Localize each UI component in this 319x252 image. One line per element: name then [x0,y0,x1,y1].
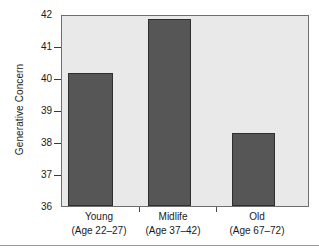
y-axis-title: Generative Concern [10,34,30,184]
y-tick-mark [54,175,61,176]
bar-chart-figure: Generative Concern 42 41 40 39 38 37 36 … [0,0,319,252]
x-category-old: Old (Age 67–72) [207,210,307,238]
plot-inner [62,16,308,206]
y-tick-label: 37 [30,170,52,180]
y-tick-mark [54,79,61,80]
plot-area [61,15,309,207]
bar-young [68,73,113,206]
y-axis-title-text: Generative Concern [15,63,26,154]
y-tick-mark [54,143,61,144]
x-category-label: Old [207,210,307,224]
y-tick-label: 42 [30,10,52,20]
bar-midlife [148,19,191,206]
y-tick-mark [54,111,61,112]
bar-old [232,133,275,206]
y-tick-label: 41 [30,42,52,52]
y-tick-mark [54,47,61,48]
y-tick-label: 40 [30,74,52,84]
page-rule [0,245,319,246]
y-tick-label: 39 [30,106,52,116]
x-category-sublabel: (Age 67–72) [207,224,307,238]
y-tick-label: 38 [30,138,52,148]
